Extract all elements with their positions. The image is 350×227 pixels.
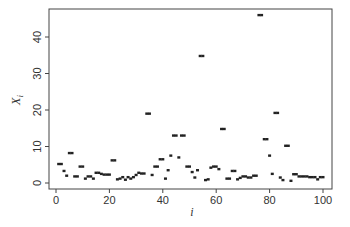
data-point: [129, 177, 132, 179]
data-point: [300, 175, 303, 177]
data-point: [191, 171, 194, 173]
data-point: [71, 152, 74, 154]
data-point: [252, 175, 255, 177]
data-point: [103, 173, 106, 175]
data-point: [212, 165, 215, 167]
data-point: [249, 176, 252, 178]
y-tick-label: 30: [31, 67, 43, 79]
data-point: [316, 178, 319, 180]
data-point: [161, 158, 164, 160]
x-tick-label: 60: [210, 194, 222, 206]
data-point: [180, 134, 183, 136]
data-point: [175, 134, 178, 136]
data-point: [167, 169, 170, 171]
data-point: [105, 173, 108, 175]
data-point: [303, 175, 306, 177]
data-point: [247, 176, 250, 178]
data-point: [308, 176, 311, 178]
data-point: [127, 176, 130, 178]
data-point: [121, 176, 124, 178]
x-tick-label: 80: [263, 194, 275, 206]
data-point: [284, 145, 287, 147]
data-point: [220, 128, 223, 130]
data-point: [244, 175, 247, 177]
y-axis: 010203040: [31, 31, 49, 186]
data-point: [156, 165, 159, 167]
x-axis: 020406080100: [53, 189, 332, 206]
data-point: [295, 173, 298, 175]
data-point: [265, 138, 268, 140]
data-point: [159, 158, 162, 160]
data-point: [287, 145, 290, 147]
data-point: [319, 176, 322, 178]
data-point: [201, 55, 204, 57]
data-point: [196, 169, 199, 171]
data-point: [233, 170, 236, 172]
data-point: [279, 176, 282, 178]
data-point: [215, 165, 218, 167]
data-point: [223, 128, 226, 130]
x-tick-label: 0: [53, 194, 59, 206]
data-point: [97, 172, 100, 174]
x-axis-label: i: [190, 205, 193, 219]
data-point: [169, 154, 172, 156]
data-point: [311, 176, 314, 178]
data-point: [81, 165, 84, 167]
data-point: [177, 156, 180, 158]
data-point: [57, 163, 60, 165]
data-point: [273, 112, 276, 114]
data-point: [119, 177, 122, 179]
data-point: [241, 175, 244, 177]
data-point: [79, 165, 82, 167]
data-point: [63, 170, 66, 172]
data-point: [257, 14, 260, 16]
data-point: [263, 138, 266, 140]
data-point: [65, 175, 68, 177]
data-point: [172, 134, 175, 136]
data-point: [185, 165, 188, 167]
data-point: [111, 159, 114, 161]
data-point: [193, 176, 196, 178]
data-point: [73, 175, 76, 177]
data-point: [183, 134, 186, 136]
y-tick-label: 20: [31, 104, 43, 116]
data-point: [164, 177, 167, 179]
data-point: [236, 178, 239, 180]
data-point: [143, 172, 146, 174]
data-point: [276, 112, 279, 114]
plot-frame: [49, 9, 332, 189]
data-point: [207, 178, 210, 180]
x-tick-label: 100: [314, 194, 332, 206]
data-point: [271, 173, 274, 175]
data-point: [209, 166, 212, 168]
data-point: [100, 173, 103, 175]
data-point: [322, 176, 325, 178]
y-axis-label-subscript: i: [15, 95, 25, 98]
data-point: [145, 112, 148, 114]
y-tick-label: 0: [31, 180, 43, 186]
data-point: [289, 180, 292, 182]
data-point: [217, 168, 220, 170]
y-tick-label: 40: [31, 31, 43, 43]
data-points: [57, 14, 324, 182]
data-point: [95, 172, 98, 174]
data-point: [140, 172, 143, 174]
data-point: [281, 179, 284, 181]
data-point: [92, 177, 95, 179]
y-tick-label: 10: [31, 140, 43, 152]
data-point: [292, 173, 295, 175]
data-point: [124, 179, 127, 181]
data-point: [116, 178, 119, 180]
data-point: [84, 177, 87, 179]
data-point: [231, 170, 234, 172]
data-point: [260, 14, 263, 16]
x-tick-label: 20: [103, 194, 115, 206]
data-point: [228, 177, 231, 179]
data-point: [255, 175, 258, 177]
data-point: [305, 175, 308, 177]
data-point: [199, 55, 202, 57]
data-point: [151, 174, 154, 176]
data-point: [297, 175, 300, 177]
data-point: [268, 154, 271, 156]
y-axis-label: Xi: [9, 95, 25, 106]
